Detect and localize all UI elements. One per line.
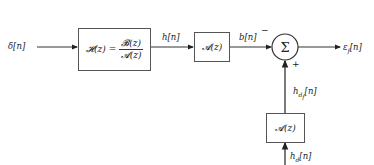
- denominator: 𝓐(z): [121, 50, 142, 61]
- b-signal-label: b[n]: [239, 33, 257, 42]
- input-signal-label: δ[n]: [8, 42, 25, 51]
- hdf-signal-label: hdf[n]: [293, 87, 317, 100]
- connections: Σ: [0, 0, 374, 165]
- transfer-function-block: 𝓗(z) = 𝓑(z) 𝓐(z): [78, 28, 151, 71]
- a-bottom-label: 𝓐(z): [275, 123, 296, 134]
- h-signal-label: h[n]: [162, 33, 180, 42]
- sigma-symbol: Σ: [280, 40, 289, 55]
- numerator: 𝓑(z): [119, 38, 143, 50]
- a-block-bottom: 𝓐(z): [266, 113, 305, 143]
- plus-sign: +: [292, 60, 300, 69]
- fraction: 𝓑(z) 𝓐(z): [119, 38, 143, 61]
- a-block-top: 𝓐(z): [194, 32, 230, 62]
- a-top-label: 𝓐(z): [202, 42, 223, 53]
- h-lhs: 𝓗(z) =: [86, 44, 116, 55]
- hd-signal-label: hd[n]: [290, 152, 311, 163]
- output-signal-label: εf[n]: [343, 43, 362, 54]
- minus-sign: −: [261, 26, 269, 35]
